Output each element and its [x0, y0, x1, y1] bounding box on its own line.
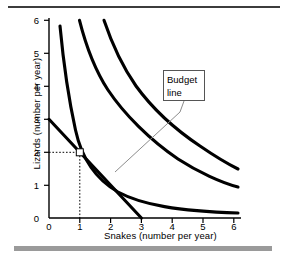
y-tick-label-0: 0	[27, 213, 39, 224]
figure-root: 6 5 4 3 2 1 0 0 1 2 3 4 5 6 Lizards (num…	[0, 0, 284, 261]
y-axis-ticks	[44, 20, 49, 185]
axes-group	[49, 18, 241, 218]
indifference-curve-i2	[80, 20, 239, 187]
y-axis-title: Lizards (number per year)	[31, 34, 42, 194]
annotation-line-2: line	[167, 86, 204, 99]
annotation-line-1: Budget	[167, 73, 204, 86]
y-tick-label-6: 6	[27, 15, 39, 26]
x-axis-title: Snakes (number per year)	[104, 230, 217, 241]
x-tick-label-1: 1	[73, 221, 87, 232]
x-tick-label-6: 6	[227, 221, 241, 232]
budget-line-annotation-box: Budget line	[163, 70, 205, 101]
indifference-curve-i1	[60, 26, 238, 213]
budget-line	[49, 119, 141, 218]
tangency-guides	[49, 152, 80, 218]
x-tick-label-0: 0	[42, 221, 56, 232]
tangency-point-marker	[76, 149, 83, 156]
